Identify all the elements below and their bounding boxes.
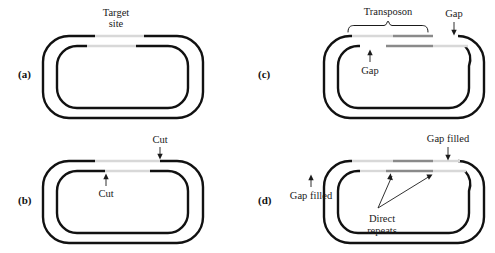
panel-a-inner-strand-dark: [57, 46, 188, 108]
gap-filled-right-annotation: Gap filled: [427, 133, 470, 161]
transposon-label: Transposon: [364, 6, 413, 17]
target-site-label-line2: site: [109, 18, 124, 29]
transposon-brace: [348, 21, 428, 32]
direct-repeats-arrow-right-shaft: [378, 176, 430, 208]
panel-b-inner-strand: [57, 171, 188, 233]
direct-repeats-annotation: Direct repeats: [367, 173, 432, 236]
cut-top-annotation: Cut: [152, 134, 167, 160]
target-site-label-line1: Target: [103, 7, 130, 18]
panel-b-inner-strand-dark: [57, 171, 188, 233]
cut-top-arrow-head: [157, 154, 162, 160]
direct-repeats-arrow-right-head: [426, 174, 432, 179]
cut-bottom-label: Cut: [98, 188, 113, 199]
panel-c: (c) Transposon Gap: [258, 6, 484, 118]
panel-b: (b) Cut Cut: [18, 134, 203, 243]
panel-a: (a) Target site: [18, 7, 203, 118]
cut-bottom-arrow-head: [103, 174, 108, 180]
gap-filled-right-label: Gap filled: [427, 133, 470, 144]
gap-filled-left-label: Gap filled: [290, 190, 333, 201]
gap-left-arrow-head: [367, 50, 372, 56]
panel-c-label: (c): [258, 68, 271, 81]
gap-right-arrow-head: [451, 30, 456, 36]
gap-left-annotation: Gap: [361, 50, 379, 77]
panel-d-inner-strand-dark: [338, 171, 470, 233]
panel-a-label: (a): [18, 68, 31, 81]
direct-repeats-label-line1: Direct: [369, 213, 395, 224]
panel-b-label: (b): [18, 194, 32, 207]
panel-a-inner-strand: [57, 46, 188, 108]
direct-repeats-label-line2: repeats: [367, 225, 397, 236]
panel-d-inner-strand: [338, 171, 470, 233]
panel-c-inner-strand-dark: [338, 46, 470, 108]
transposon-annotation: Transposon: [348, 6, 428, 32]
gap-filled-left-arrow-head: [308, 175, 313, 181]
gap-filled-right-arrow-head: [445, 155, 450, 161]
panel-d-label: (d): [258, 194, 272, 207]
cut-top-label: Cut: [152, 134, 167, 145]
gap-right-label: Gap: [445, 8, 463, 19]
panel-c-inner-strand: [338, 46, 470, 108]
cut-bottom-annotation: Cut: [98, 174, 113, 200]
panel-d: (d) Gap filled Gap filled: [258, 133, 484, 243]
gap-right-annotation: Gap: [445, 8, 463, 36]
gap-left-label: Gap: [361, 65, 379, 76]
transposon-insertion-figure: (a) Target site (b): [0, 0, 495, 253]
